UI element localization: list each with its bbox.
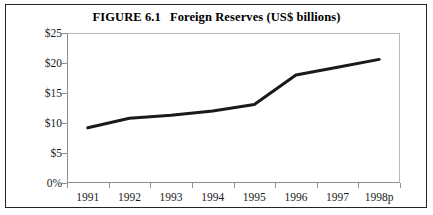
y-axis-tick-mark xyxy=(62,123,67,124)
page-title: FIGURE 6.1Foreign Reserves (US$ billions… xyxy=(0,10,433,25)
x-axis-tick-mark xyxy=(275,183,276,188)
y-axis-tick-mark xyxy=(62,153,67,154)
y-axis-tick-mark xyxy=(62,93,67,94)
figure-number: FIGURE 6.1 xyxy=(93,10,161,24)
x-axis-tick-label: 1993 xyxy=(160,191,183,203)
y-axis-tick-mark xyxy=(62,63,67,64)
x-axis-tick-label: 1998p xyxy=(365,191,394,203)
y-axis-tick-label: $15 xyxy=(22,87,62,99)
x-axis-tick-label: 1995 xyxy=(243,191,266,203)
x-axis-tick-label: 1997 xyxy=(326,191,349,203)
x-axis-labels: 19911992199319941995199619971998p xyxy=(67,183,400,213)
x-axis-tick-mark xyxy=(67,183,68,188)
x-axis-tick-label: 1996 xyxy=(284,191,307,203)
plot-area xyxy=(67,33,400,183)
y-axis-tick-mark xyxy=(62,33,67,34)
figure-title-text: Foreign Reserves (US$ billions) xyxy=(170,10,341,24)
x-axis-tick-mark xyxy=(317,183,318,188)
line-series-foreign-reserves xyxy=(67,33,400,183)
x-axis-tick-mark xyxy=(358,183,359,188)
y-axis-tick-label: 0% xyxy=(22,177,62,189)
y-axis-tick-label: $20 xyxy=(22,57,62,69)
figure-container: FIGURE 6.1Foreign Reserves (US$ billions… xyxy=(0,0,433,215)
x-axis-tick-label: 1991 xyxy=(76,191,99,203)
x-axis-tick-mark xyxy=(234,183,235,188)
y-axis-tick-mark xyxy=(62,183,67,184)
y-axis-tick-label: $5 xyxy=(22,147,62,159)
x-axis-tick-mark xyxy=(109,183,110,188)
y-axis-tick-label: $25 xyxy=(22,27,62,39)
x-axis-tick-label: 1994 xyxy=(201,191,224,203)
x-axis-tick-mark xyxy=(150,183,151,188)
x-axis-tick-label: 1992 xyxy=(118,191,141,203)
x-axis-tick-mark xyxy=(192,183,193,188)
y-axis-labels: 0%$5$10$15$20$25 xyxy=(18,33,62,183)
x-axis-tick-mark xyxy=(400,183,401,188)
y-axis-tick-label: $10 xyxy=(22,117,62,129)
